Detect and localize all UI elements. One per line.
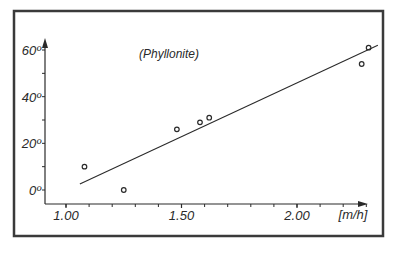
y-tick-label: 0º xyxy=(29,183,42,198)
x-tick-label: 2.00 xyxy=(283,208,310,223)
x-axis-label: [m/h] xyxy=(338,207,368,222)
data-point xyxy=(82,164,87,169)
data-point xyxy=(175,127,180,132)
data-point xyxy=(359,62,364,67)
plot-area xyxy=(80,45,378,192)
chart-figure: 1.001.502.000º20º40º60º (Phyllonite) [m/… xyxy=(0,0,397,253)
regression-line xyxy=(80,45,378,184)
y-tick-label: 60º xyxy=(22,43,42,58)
data-point xyxy=(121,188,126,193)
x-tick-label: 1.00 xyxy=(53,208,79,223)
data-point xyxy=(207,115,212,120)
y-tick-label: 40º xyxy=(22,90,42,105)
y-axis-arrow-icon xyxy=(42,38,48,48)
x-tick-label: 1.50 xyxy=(169,208,195,223)
y-tick-label: 20º xyxy=(21,136,42,151)
data-point xyxy=(198,120,203,125)
chart-title: (Phyllonite) xyxy=(139,47,199,61)
